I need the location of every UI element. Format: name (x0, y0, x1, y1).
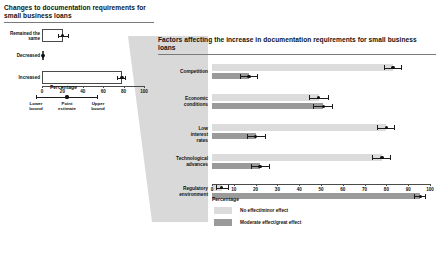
right-chart-bar-fill (212, 103, 323, 109)
point-estimate-dot (385, 126, 388, 129)
axis-tick-label: 60 (340, 187, 345, 192)
right-chart-title: Factors affecting the increase in docume… (158, 36, 436, 55)
left-chart-category-label: Remained the same (4, 31, 40, 41)
axis-tick-label: 40 (297, 187, 302, 192)
legend-swatch (214, 207, 232, 214)
axis-tick-label: 100 (426, 187, 434, 192)
left-chart-category-label: Increased (4, 75, 40, 80)
right-chart-category-label: Competition (158, 69, 208, 75)
point-estimate-dot (419, 195, 422, 198)
left-chart-row: Decreased (4, 51, 148, 60)
axis-tick-label: 30 (275, 187, 280, 192)
right-chart-bar (212, 163, 430, 169)
left-chart-panel: Changes to documentation requirements fo… (4, 4, 154, 97)
right-chart-bar-fill (212, 154, 382, 160)
point-estimate-dot (380, 156, 383, 159)
right-chart-bar (212, 124, 430, 130)
right-chart-category-label: Regulatoryenvironment (158, 186, 208, 197)
point-estimate-dot (120, 76, 123, 79)
right-chart-bar (212, 103, 430, 109)
point-estimate-dot (254, 135, 257, 138)
right-chart-bar (212, 133, 430, 139)
axis-tick-label: 10 (231, 187, 236, 192)
point-estimate-dot (247, 75, 250, 78)
legend-label: No effect/minor effect (240, 208, 288, 213)
right-chart-bar (212, 94, 430, 100)
point-estimate-dot (322, 105, 325, 108)
right-chart-group: Lowinterestrates (158, 124, 436, 148)
axis-tick-label: 50 (318, 187, 323, 192)
right-chart-group: Competition (158, 64, 436, 88)
left-chart-bar (42, 71, 122, 84)
legend-label: Moderate effect/great effect (240, 220, 301, 225)
legend-item: Moderate effect/great effect (214, 218, 301, 227)
key-ci-marker (36, 94, 102, 100)
right-chart-group: Technologicaladvances (158, 154, 436, 178)
right-chart-title-text: Factors affecting the increase in docume… (158, 36, 417, 51)
point-estimate-dot (391, 66, 394, 69)
right-chart-x-axis: 0102030405060708090100 (212, 184, 430, 194)
right-chart-category-label: Lowinterestrates (158, 126, 208, 143)
key-label: Pointestimate (58, 101, 76, 111)
right-chart-category-label: Technologicaladvances (158, 156, 208, 167)
left-chart-row: Increased (4, 71, 148, 84)
title-rule (158, 54, 436, 55)
left-axis-label: Percentage (50, 84, 77, 90)
right-chart-bar (212, 73, 430, 79)
key-label: Lowerbound (29, 101, 42, 111)
right-chart-bar-fill (212, 94, 319, 100)
right-chart-bar (212, 64, 430, 70)
key-labels: LowerboundPointestimateUpperbound (32, 101, 152, 113)
right-chart-legend: No effect/minor effectModerate effect/gr… (214, 206, 301, 229)
right-chart-category-label: Economicconditions (158, 96, 208, 107)
right-chart-bar-fill (212, 64, 393, 70)
left-chart-row: Remained the same (4, 29, 148, 42)
right-axis-label: Percentage (212, 196, 239, 202)
key-label: Upperbound (91, 101, 104, 111)
point-estimate-dot (41, 54, 44, 57)
legend-item: No effect/minor effect (214, 206, 301, 215)
figure-root: Changes to documentation requirements fo… (0, 0, 440, 256)
left-chart-category-label: Decreased (4, 53, 40, 58)
right-chart-bar-fill (212, 124, 386, 130)
axis-tick-label: 80 (384, 187, 389, 192)
point-estimate-dot (65, 95, 68, 98)
axis-tick-label: 20 (253, 187, 258, 192)
right-chart-panel: Factors affecting the increase in docume… (158, 36, 436, 212)
point-estimate-dot (258, 165, 261, 168)
title-rule (4, 22, 154, 23)
left-chart-key: LowerboundPointestimateUpperbound (32, 94, 152, 113)
point-estimate-dot (317, 96, 320, 99)
right-chart-bar (212, 154, 430, 160)
axis-tick-label: 70 (362, 187, 367, 192)
axis-tick-label: 90 (406, 187, 411, 192)
left-chart-title-text: Changes to documentation requirements fo… (4, 4, 146, 19)
legend-swatch (214, 219, 232, 226)
left-chart-title: Changes to documentation requirements fo… (4, 4, 154, 23)
axis-tick-label: 0 (211, 187, 214, 192)
right-chart-group: Economicconditions (158, 94, 436, 118)
